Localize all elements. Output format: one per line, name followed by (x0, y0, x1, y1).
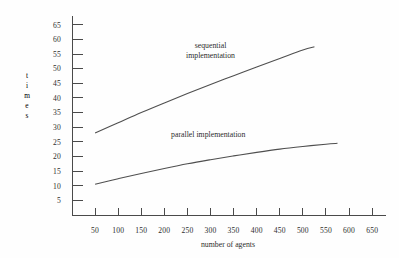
chart-figure: 5101520253035404550556065 50100150200250… (0, 0, 399, 258)
x-tick-label: 400 (251, 226, 263, 235)
x-tick-label: 550 (320, 226, 332, 235)
y-axis-title: times (24, 71, 30, 120)
series-annotation-0: implementation (186, 51, 235, 60)
series-annotation-0: sequential (195, 41, 227, 50)
line-chart-plot: 5101520253035404550556065 50100150200250… (0, 0, 399, 258)
series-annotation-1: parallel implementation (171, 130, 245, 139)
x-tick-label: 50 (91, 226, 99, 235)
y-axis-tick-labels: 5101520253035404550556065 (53, 21, 61, 206)
x-tick-label: 650 (366, 226, 378, 235)
x-axis-tick-labels: 50100150200250300350400450500550600650 (91, 226, 378, 235)
x-tick-label: 300 (205, 226, 217, 235)
y-tick-label: 65 (53, 21, 61, 30)
y-tick-label: 15 (53, 167, 61, 176)
y-axis-title-letter: s (26, 111, 29, 120)
y-axis-title-letter: t (26, 71, 29, 80)
y-tick-label: 20 (53, 152, 61, 161)
x-tick-label: 450 (274, 226, 286, 235)
y-tick-label: 60 (53, 35, 61, 44)
chart-series-annotations: sequentialimplementationparallel impleme… (171, 41, 245, 139)
y-axis-title-letter: e (25, 101, 29, 110)
y-tick-label: 35 (53, 108, 61, 117)
x-tick-label: 600 (343, 226, 355, 235)
x-tick-label: 200 (158, 226, 170, 235)
x-tick-label: 250 (181, 226, 193, 235)
x-tick-label: 500 (297, 226, 309, 235)
y-axis-title-letter: m (24, 91, 30, 100)
x-axis-title: number of agents (201, 240, 255, 249)
y-tick-label: 25 (53, 138, 61, 147)
y-tick-label: 10 (53, 182, 61, 191)
chart-series-curves (95, 47, 337, 185)
x-tick-label: 350 (228, 226, 240, 235)
series-curve-1 (95, 143, 337, 184)
y-axis-title-letter: i (26, 81, 28, 90)
chart-axes (72, 16, 386, 215)
y-tick-label: 40 (53, 94, 61, 103)
y-tick-label: 45 (53, 79, 61, 88)
y-tick-label: 50 (53, 64, 61, 73)
y-tick-label: 55 (53, 50, 61, 59)
y-tick-label: 30 (53, 123, 61, 132)
y-tick-label: 5 (57, 196, 61, 205)
x-tick-label: 100 (112, 226, 124, 235)
x-tick-label: 150 (135, 226, 147, 235)
